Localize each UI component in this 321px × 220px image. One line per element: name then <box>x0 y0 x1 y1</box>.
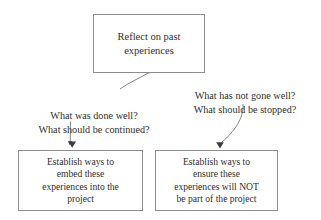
edge-label-right-text: What has not gone well? What should be s… <box>194 90 297 114</box>
arrowhead-left <box>68 142 76 148</box>
node-exclude-label: Establish ways to ensure these experienc… <box>171 156 262 205</box>
node-reflect-on-past-experiences[interactable]: Reflect on past experiences <box>93 14 205 73</box>
edge-label-what-has-not-gone-well: What has not gone well? What should be s… <box>172 76 318 116</box>
node-establish-ways-to-exclude[interactable]: Establish ways to ensure these experienc… <box>155 150 278 211</box>
edge-label-what-was-done-well: What was done well? What should be conti… <box>18 96 170 136</box>
edge-label-left-text: What was done well? What should be conti… <box>38 110 149 134</box>
diagram-canvas: Reflect on past experiences What was don… <box>0 0 321 220</box>
node-reflect-label: Reflect on past experiences <box>115 30 184 57</box>
node-embed-label: Establish ways to embed these experience… <box>39 156 122 205</box>
arrowhead-right <box>216 142 224 148</box>
node-establish-ways-to-embed[interactable]: Establish ways to embed these experience… <box>18 150 143 211</box>
